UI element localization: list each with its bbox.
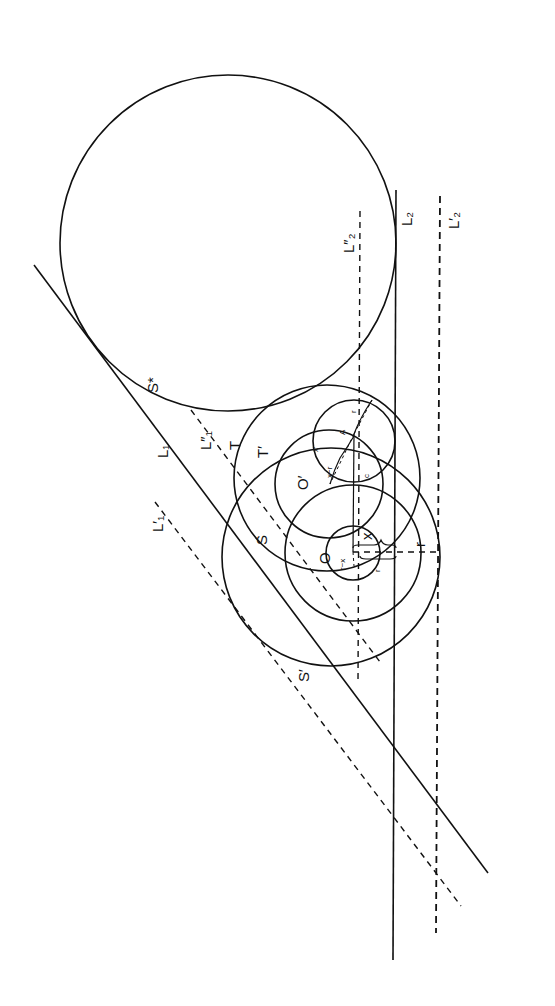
label-S-star: S* (144, 377, 161, 393)
line-L2-double-prime (358, 211, 360, 683)
label-S-prime: S′ (295, 669, 312, 682)
label-L1-prime: L′₁ (149, 516, 166, 532)
segment-O-down-dashed (353, 552, 354, 566)
label-r-inner: r (373, 569, 382, 572)
label-x-prime: x′ (311, 446, 320, 452)
label-S: S (253, 535, 270, 545)
label-x-minus-r: x−r (325, 466, 334, 478)
line-L1-double-prime (191, 410, 380, 662)
line-L1-prime (155, 502, 461, 906)
label-r-minus-x: r−x (338, 559, 347, 570)
label-L2-prime: L′₂ (445, 212, 462, 229)
label-O-prime: O′ (294, 475, 311, 490)
label-T-prime: T′ (254, 446, 271, 458)
label-r-small-upper: r (349, 410, 358, 413)
circle-T-prime (275, 430, 383, 538)
label-L1-double-prime: L″₁ (197, 431, 214, 450)
segment-A-O (353, 434, 354, 552)
label-r-outer: r (411, 542, 428, 547)
label-L2-double-prime: L″₂ (340, 233, 357, 253)
geometry-diagram: S* L₁ L″₁ T T′ O′ A c x′ x−r r S L′₁ O r… (0, 0, 555, 1006)
label-L1: L₁ (154, 445, 171, 458)
label-O: O (316, 552, 333, 564)
label-c: c (362, 474, 371, 478)
label-x: x (358, 532, 375, 540)
label-T: T (226, 441, 243, 450)
label-A: A (338, 429, 347, 435)
line-L2 (393, 190, 396, 960)
label-L2: L₂ (398, 212, 415, 226)
